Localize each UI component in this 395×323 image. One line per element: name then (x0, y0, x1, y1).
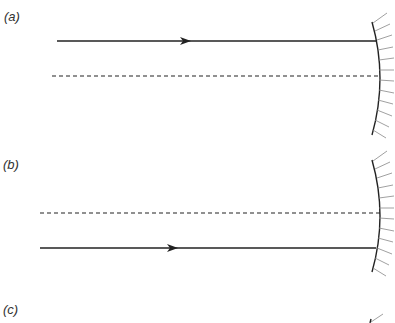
panel-a (52, 13, 394, 138)
mirror-hatching-fragment (371, 314, 383, 322)
diagram-canvas (0, 0, 395, 323)
concave-mirror (372, 22, 380, 135)
panel-c (370, 314, 383, 323)
concave-mirror-fragment (370, 319, 371, 323)
panel-b (40, 151, 394, 276)
concave-mirror (372, 160, 380, 272)
